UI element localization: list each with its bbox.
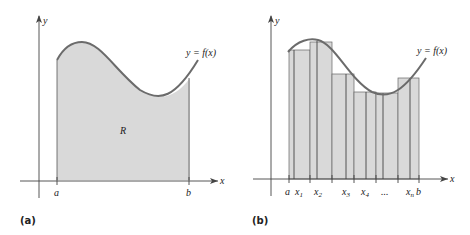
- figure: y x a b y = f(x) R (a): [0, 0, 470, 235]
- x-axis-label: x: [219, 175, 225, 186]
- riemann-rectangles: [289, 42, 419, 179]
- y-axis-label: y: [274, 15, 280, 26]
- tick-x4: x4: [360, 186, 369, 199]
- tick-x1: x1: [294, 186, 303, 199]
- x-axis-label: x: [449, 173, 455, 184]
- panel-a: y x a b y = f(x) R (a): [20, 15, 225, 226]
- panel-label-a: (a): [20, 215, 36, 226]
- tick-ellipsis: ...: [381, 186, 389, 197]
- tick-a: a: [285, 186, 290, 197]
- curve-label: y = f(x): [185, 47, 217, 59]
- tick-b: b: [186, 187, 191, 198]
- tick-x3: x3: [341, 186, 350, 199]
- tick-a: a: [54, 187, 59, 198]
- region-r: [57, 42, 190, 180]
- panel-label-b: (b): [252, 215, 268, 226]
- tick-x2: x2: [313, 186, 322, 199]
- panel-b: y x a x1 x2 x3 x4 ... xn b y = f(x) (b): [252, 15, 455, 226]
- region-label: R: [119, 125, 126, 136]
- tick-b: b: [416, 186, 421, 197]
- tick-xn: xn: [405, 186, 414, 199]
- y-axis-label: y: [42, 15, 48, 26]
- curve-label: y = f(x): [416, 45, 448, 57]
